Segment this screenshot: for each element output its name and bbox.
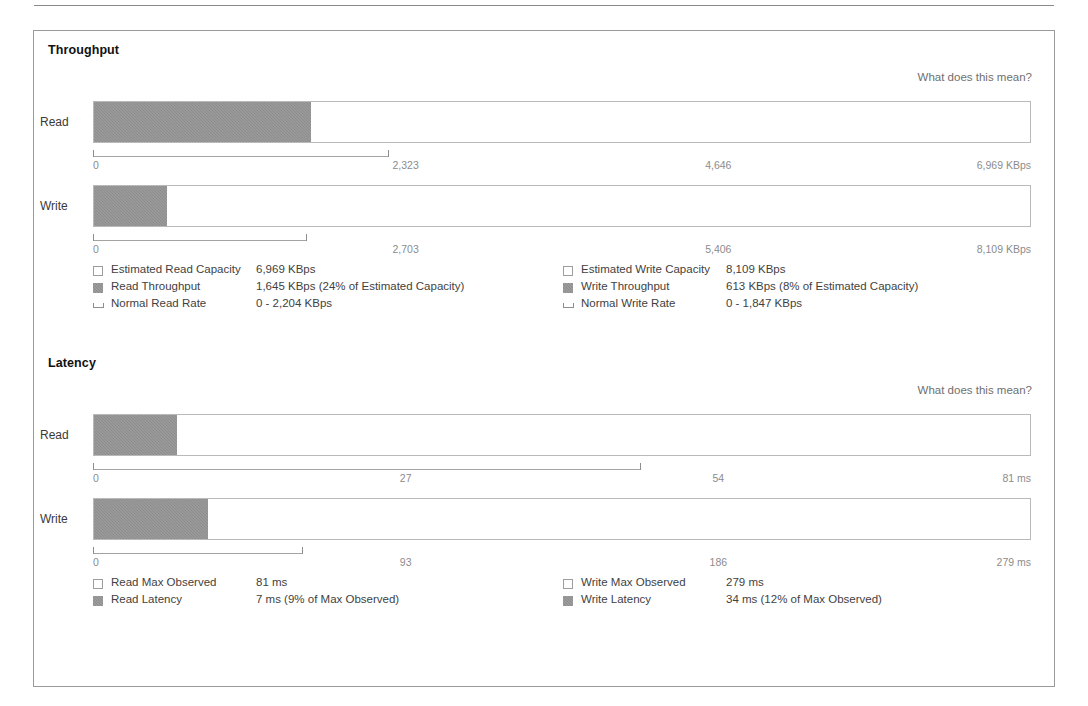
legend-item: Read Latency7 ms (9% of Max Observed)	[93, 593, 563, 610]
legend-item: Estimated Read Capacity6,969 KBps	[93, 263, 563, 280]
legend-item-name: Write Throughput	[581, 280, 669, 292]
normal-range-bracket	[93, 232, 307, 241]
legend-item-name: Normal Read Rate	[111, 297, 206, 309]
legend: Estimated Read Capacity6,969 KBpsRead Th…	[93, 263, 1083, 320]
bar-fill	[94, 499, 208, 539]
legend-item-value: 81 ms	[256, 576, 287, 588]
axis-tick: 5,406	[705, 243, 731, 255]
bracket-line	[93, 469, 641, 470]
legend-item-name: Write Max Observed	[581, 576, 686, 588]
bar-row-label: Read	[40, 115, 92, 129]
legend-item-name: Estimated Read Capacity	[111, 263, 241, 275]
axis-tick: 93	[400, 556, 412, 568]
axis-tick: 6,969 KBps	[977, 159, 1031, 171]
spacer	[34, 85, 1054, 95]
legend-item-name: Normal Write Rate	[581, 297, 675, 309]
legend-item-value: 1,645 KBps (24% of Estimated Capacity)	[256, 280, 464, 292]
normal-range-bracket	[93, 545, 303, 554]
normal-range-bracket	[93, 148, 389, 157]
axis-tick: 279 ms	[997, 556, 1031, 568]
legend-item-value: 0 - 1,847 KBps	[726, 297, 802, 309]
bracket-line	[93, 156, 389, 157]
performance-panel: ThroughputWhat does this mean?Read02,323…	[33, 30, 1055, 687]
legend-item: Write Latency34 ms (12% of Max Observed)	[563, 593, 1033, 610]
bar-track	[93, 414, 1031, 456]
legend-swatch-bracket-icon	[563, 300, 573, 310]
bracket-cap-right	[640, 463, 641, 470]
axis-tick: 0	[93, 243, 99, 255]
legend-item-name: Read Latency	[111, 593, 182, 605]
legend-item: Normal Read Rate0 - 2,204 KBps	[93, 297, 563, 314]
bar-axis: 093186279 ms	[93, 556, 1031, 572]
bar-track	[93, 185, 1031, 227]
bracket-line	[93, 240, 307, 241]
section-throughput: ThroughputWhat does this mean?Read02,323…	[34, 31, 1054, 344]
normal-range-bracket	[93, 461, 641, 470]
help-link-row: What does this mean?	[34, 370, 1054, 398]
legend-item-value: 8,109 KBps	[726, 263, 785, 275]
bar-fill	[94, 415, 177, 455]
section-title: Throughput	[34, 31, 1054, 57]
legend-item-value: 279 ms	[726, 576, 764, 588]
axis-tick: 8,109 KBps	[977, 243, 1031, 255]
bracket-cap-left	[93, 150, 94, 157]
bracket-cap-left	[93, 463, 94, 470]
axis-tick: 0	[93, 159, 99, 171]
what-does-this-mean-link[interactable]: What does this mean?	[918, 384, 1032, 396]
bar-track	[93, 498, 1031, 540]
legend-item-value: 0 - 2,204 KBps	[256, 297, 332, 309]
legend-item-name: Read Max Observed	[111, 576, 216, 588]
bar-row-label: Read	[40, 428, 92, 442]
bar-row-read: Read02,3234,6466,969 KBps	[34, 95, 1054, 179]
spacer	[34, 320, 1054, 344]
legend-item: Read Max Observed81 ms	[93, 576, 563, 593]
axis-tick: 2,703	[393, 243, 419, 255]
legend-item-value: 613 KBps (8% of Estimated Capacity)	[726, 280, 918, 292]
legend-swatch-hollow-icon	[93, 579, 103, 589]
legend-swatch-hollow-icon	[563, 266, 573, 276]
legend-swatch-solid-icon	[563, 283, 573, 293]
legend-item: Write Max Observed279 ms	[563, 576, 1033, 593]
bar-axis: 02,7035,4068,109 KBps	[93, 243, 1031, 259]
bar-axis: 02,3234,6466,969 KBps	[93, 159, 1031, 175]
spacer	[34, 616, 1054, 640]
legend-item-name: Estimated Write Capacity	[581, 263, 710, 275]
bar-axis: 0275481 ms	[93, 472, 1031, 488]
legend-swatch-solid-icon	[93, 283, 103, 293]
legend-item: Write Throughput613 KBps (8% of Estimate…	[563, 280, 1033, 297]
legend: Read Max Observed81 msRead Latency7 ms (…	[93, 576, 1083, 616]
legend-item-name: Read Throughput	[111, 280, 200, 292]
axis-tick: 2,323	[393, 159, 419, 171]
bar-row-label: Write	[40, 512, 92, 526]
legend-swatch-hollow-icon	[563, 579, 573, 589]
bar-row-write: Write02,7035,4068,109 KBps	[34, 179, 1054, 263]
bar-row-write: Write093186279 ms	[34, 492, 1054, 576]
what-does-this-mean-link[interactable]: What does this mean?	[918, 71, 1032, 83]
legend-item-value: 6,969 KBps	[256, 263, 315, 275]
axis-tick: 27	[400, 472, 412, 484]
legend-item-value: 34 ms (12% of Max Observed)	[726, 593, 882, 605]
legend-column-right: Estimated Write Capacity8,109 KBpsWrite …	[563, 263, 1033, 314]
top-divider-rule	[34, 5, 1054, 6]
axis-tick: 0	[93, 472, 99, 484]
legend-column-left: Estimated Read Capacity6,969 KBpsRead Th…	[93, 263, 563, 314]
legend-swatch-solid-icon	[93, 596, 103, 606]
axis-tick: 4,646	[705, 159, 731, 171]
legend-item-name: Write Latency	[581, 593, 651, 605]
legend-item: Estimated Write Capacity8,109 KBps	[563, 263, 1033, 280]
help-link-row: What does this mean?	[34, 57, 1054, 85]
bracket-cap-left	[93, 547, 94, 554]
spacer	[34, 398, 1054, 408]
axis-tick: 186	[710, 556, 728, 568]
legend-swatch-hollow-icon	[93, 266, 103, 276]
bar-row-read: Read0275481 ms	[34, 408, 1054, 492]
legend-column-right: Write Max Observed279 msWrite Latency34 …	[563, 576, 1033, 610]
section-title: Latency	[34, 344, 1054, 370]
bar-fill	[94, 186, 167, 226]
legend-item-value: 7 ms (9% of Max Observed)	[256, 593, 399, 605]
legend-column-left: Read Max Observed81 msRead Latency7 ms (…	[93, 576, 563, 610]
bracket-cap-right	[388, 150, 389, 157]
legend-swatch-solid-icon	[563, 596, 573, 606]
bracket-cap-right	[306, 234, 307, 241]
axis-tick: 0	[93, 556, 99, 568]
